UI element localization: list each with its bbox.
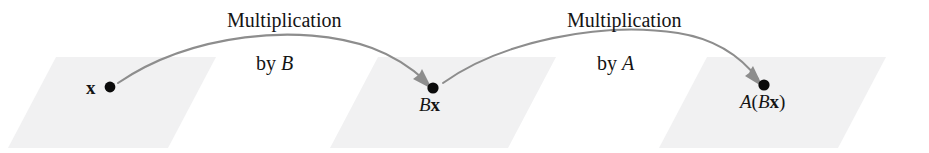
arrow-a-label-by: by: [597, 52, 622, 74]
point-label-bx-vector: x: [431, 94, 441, 115]
arrow-b-label-line2: by B: [256, 53, 293, 73]
point-label-a-bx-matrix-b: B: [758, 91, 770, 112]
point-label-a-bx-matrix-a: A: [740, 91, 752, 112]
point-label-a-bx-vector: x: [770, 91, 780, 112]
point-label-x-text: x: [86, 77, 96, 98]
point-label-x: x: [86, 78, 96, 97]
point-label-bx: Bx: [419, 95, 440, 114]
dot-a-bx: [758, 79, 769, 90]
linear-transformation-composition-figure: x Bx A(Bx) Multiplication by B Multiplic…: [0, 0, 929, 153]
plane-intermediate: [330, 57, 556, 148]
arrow-a-label-line2: by A: [597, 53, 634, 73]
figure-canvas: [0, 0, 929, 153]
arrow-b-label-matrix: B: [281, 52, 293, 74]
arrow-a-label-line1: Multiplication: [567, 10, 681, 30]
point-label-a-bx: A(Bx): [740, 92, 785, 111]
arrow-a-label-matrix: A: [622, 52, 634, 74]
point-label-a-bx-close-paren: ): [779, 91, 785, 112]
arrow-b-label-by: by: [256, 52, 281, 74]
plane-domain: [8, 57, 216, 148]
point-label-bx-matrix: B: [419, 94, 431, 115]
dot-x: [105, 82, 116, 93]
dot-bx: [427, 82, 438, 93]
arrow-b-label-line1: Multiplication: [227, 10, 341, 30]
